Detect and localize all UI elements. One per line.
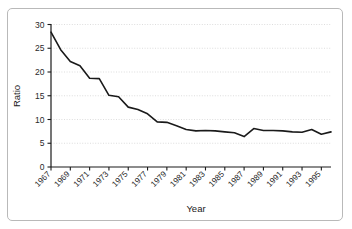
y-tick-label: 25 [35,43,45,53]
x-tick-label: 1979 [149,169,169,189]
x-tick-label: 1977 [130,169,150,189]
x-tick-label: 1985 [207,169,227,189]
x-tick-label: 1967 [33,169,53,189]
x-axis-ticks-group: 1967196919711973197519771979198119831985… [33,167,323,189]
x-tick-label: 1975 [110,169,130,189]
x-tick-label: 1991 [265,169,285,189]
y-axis-title: Ratio [11,85,22,107]
line-chart: 051015202530 196719691971197319751977197… [0,0,352,229]
chart-screenshot: 051015202530 196719691971197319751977197… [0,0,352,229]
data-series-line [51,32,331,137]
y-tick-label: 10 [35,115,45,125]
x-tick-label: 1983 [188,169,208,189]
y-tick-label: 5 [40,138,45,148]
x-tick-label: 1995 [304,169,324,189]
x-tick-label: 1973 [91,169,111,189]
gridlines-group [51,25,331,144]
x-axis-title: Year [186,203,205,214]
x-tick-label: 1993 [284,169,304,189]
y-axis-ticks-group: 051015202530 [35,20,51,173]
x-tick-label: 1971 [72,169,92,189]
x-tick-label: 1981 [168,169,188,189]
y-tick-label: 30 [35,20,45,30]
x-tick-label: 1989 [246,169,266,189]
x-tick-label: 1987 [226,169,246,189]
y-tick-label: 15 [35,91,45,101]
x-tick-label: 1969 [52,169,72,189]
y-tick-label: 20 [35,67,45,77]
